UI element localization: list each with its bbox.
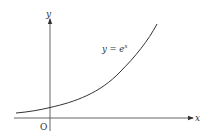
y-axis-label: y bbox=[45, 9, 52, 19]
exp-curve bbox=[16, 24, 157, 113]
exponential-graph: y x O y = ex bbox=[0, 0, 212, 138]
origin-label: O bbox=[40, 122, 47, 132]
curve-label-exponent: x bbox=[124, 42, 128, 49]
curve-label: y = ex bbox=[101, 42, 128, 54]
x-axis-label: x bbox=[195, 113, 200, 123]
curve-label-base: y = e bbox=[101, 44, 124, 54]
